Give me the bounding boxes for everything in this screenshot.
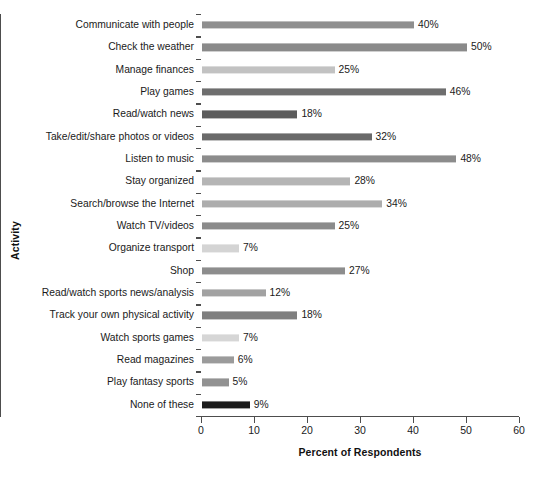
bar [202, 156, 456, 163]
category-label: Take/edit/share photos or videos [46, 132, 194, 142]
bar-row: Organize transport7% [201, 237, 519, 259]
bar [202, 178, 350, 185]
bar-row: Listen to music48% [201, 148, 519, 170]
bar [202, 66, 335, 73]
category-label: Manage finances [116, 65, 194, 75]
x-axis-tick [413, 417, 414, 423]
bar-row: Read magazines6% [201, 349, 519, 371]
bar [202, 223, 335, 230]
bar [202, 290, 266, 297]
y-axis-tick [196, 282, 202, 283]
x-axis-tick [254, 417, 255, 423]
bar-value-label: 18% [301, 310, 322, 320]
y-axis-tick [196, 260, 202, 261]
y-axis-tick [196, 14, 202, 15]
x-axis-tick [519, 417, 520, 423]
y-axis-tick [196, 170, 202, 171]
bar-row: Search/browse the Internet34% [201, 193, 519, 215]
category-label: Listen to music [125, 154, 194, 164]
category-label: Track your own physical activity [50, 310, 194, 320]
category-label: Read magazines [117, 355, 194, 365]
category-label: Stay organized [125, 176, 194, 186]
bar [202, 401, 250, 408]
y-axis-tick [196, 81, 202, 82]
x-axis-tick-label: 40 [407, 425, 419, 436]
category-label: Organize transport [109, 243, 194, 253]
category-label: Play fantasy sports [107, 377, 194, 387]
bar [202, 245, 239, 252]
x-axis-tick-label: 0 [198, 425, 204, 436]
bar [202, 200, 382, 207]
x-axis-tick-label: 20 [301, 425, 313, 436]
bar-row: Take/edit/share photos or videos32% [201, 126, 519, 148]
bar [202, 111, 297, 118]
y-axis-tick [196, 237, 202, 238]
bar-row: Watch TV/videos25% [201, 215, 519, 237]
x-axis-tick [360, 417, 361, 423]
bar-row: Play games46% [201, 81, 519, 103]
y-axis-tick [196, 371, 202, 372]
x-axis-tick-label: 50 [460, 425, 472, 436]
bar [202, 379, 229, 386]
x-axis-tick [466, 417, 467, 423]
bar-row: Read/watch sports news/analysis12% [201, 282, 519, 304]
bar [202, 44, 467, 51]
bar-value-label: 40% [418, 20, 439, 30]
bar-value-label: 34% [386, 199, 407, 209]
category-label: Watch sports games [101, 333, 194, 343]
bar-value-label: 7% [243, 243, 258, 253]
bar-chart: Activity Communicate with people40%Check… [0, 0, 556, 481]
y-axis-tick [196, 394, 202, 395]
y-axis-tick [196, 349, 202, 350]
x-axis-title: Percent of Respondents [201, 446, 519, 458]
x-axis-tick-label: 10 [248, 425, 260, 436]
bar-row: Communicate with people40% [201, 14, 519, 36]
bar [202, 267, 345, 274]
category-label: None of these [130, 400, 194, 410]
bar-value-label: 48% [460, 154, 481, 164]
category-label: Check the weather [108, 42, 194, 52]
bar-value-label: 25% [339, 221, 360, 231]
y-axis-tick [196, 126, 202, 127]
bar-value-label: 12% [270, 288, 291, 298]
bar-value-label: 50% [471, 42, 492, 52]
bar [202, 22, 414, 29]
bar-value-label: 28% [354, 176, 375, 186]
bar [202, 89, 446, 96]
x-axis-tick [307, 417, 308, 423]
bar-value-label: 25% [339, 65, 360, 75]
y-axis-tick [196, 304, 202, 305]
bar-value-label: 6% [238, 355, 253, 365]
bar [202, 133, 372, 140]
bar-value-label: 27% [349, 266, 370, 276]
category-label: Read/watch sports news/analysis [42, 288, 194, 298]
category-label: Shop [170, 266, 194, 276]
category-label: Search/browse the Internet [70, 199, 194, 209]
bar [202, 334, 239, 341]
y-axis-tick [196, 215, 202, 216]
bar-row: Track your own physical activity18% [201, 304, 519, 326]
y-axis-title: Activity [0, 0, 30, 481]
y-axis-tick [196, 193, 202, 194]
bar-value-label: 32% [376, 132, 397, 142]
x-axis-tick-label: 60 [513, 425, 525, 436]
y-axis-tick [196, 36, 202, 37]
y-axis-tick [196, 59, 202, 60]
y-axis-tick [196, 327, 202, 328]
bar-value-label: 7% [243, 333, 258, 343]
bar-row: Play fantasy sports5% [201, 371, 519, 393]
bar-value-label: 46% [450, 87, 471, 97]
bar [202, 312, 297, 319]
plot-area: Communicate with people40%Check the weat… [201, 14, 519, 416]
bar-row: Shop27% [201, 260, 519, 282]
bar-row: None of these9% [201, 394, 519, 416]
category-label: Play games [140, 87, 194, 97]
y-axis-tick [196, 103, 202, 104]
bar [202, 357, 234, 364]
category-label: Read/watch news [113, 109, 194, 119]
x-axis-tick-label: 30 [354, 425, 366, 436]
bar-row: Check the weather50% [201, 36, 519, 58]
y-axis-tick [196, 148, 202, 149]
bar-row: Manage finances25% [201, 59, 519, 81]
category-label: Communicate with people [76, 20, 194, 30]
